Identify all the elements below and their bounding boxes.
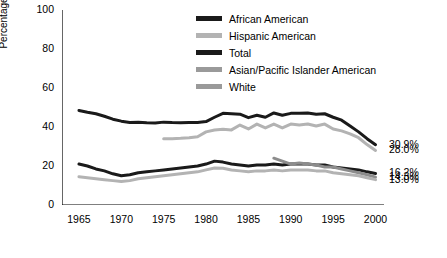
legend-label-hispanic-american: Hispanic American [229,30,316,42]
legend-swatch-african-american [196,16,222,21]
x-tick-1990: 1990 [271,213,311,225]
y-tick-80: 80 [28,42,54,54]
x-tick-1995: 1995 [313,213,353,225]
end-label-hispanic-american: 28.0% [389,143,419,155]
y-axis-label: Percentage [0,0,9,78]
legend-label-african-american: African American [229,13,308,25]
legend: African American Hispanic American Total… [196,10,376,95]
x-tick-1980: 1980 [186,213,226,225]
legend-swatch-hispanic-american [196,33,222,38]
x-tick-1970: 1970 [101,213,141,225]
legend-swatch-asian-pacific-islander-american [196,67,222,72]
x-tick-1965: 1965 [59,213,99,225]
x-tick-1975: 1975 [144,213,184,225]
x-tick-1985: 1985 [228,213,268,225]
series-line-hispanic-american [164,124,376,150]
legend-label-total: Total [229,47,251,59]
x-tick-2000: 2000 [356,213,396,225]
y-tick-100: 100 [28,3,54,15]
legend-swatch-total [196,50,222,55]
legend-label-white: White [229,81,256,93]
y-tick-60: 60 [28,81,54,93]
legend-item-total: Total [196,44,376,61]
chart-container: Percentage 020406080100 1965197019751980… [0,0,447,258]
y-tick-20: 20 [28,159,54,171]
y-tick-40: 40 [28,120,54,132]
series-line-asian-pacific-islander-american [274,158,376,177]
legend-label-asian-pacific-islander-american: Asian/Pacific Islander American [229,64,376,76]
legend-swatch-white [196,84,222,89]
legend-item-african-american: African American [196,10,376,27]
legend-item-asian-pacific-islander-american: Asian/Pacific Islander American [196,61,376,78]
legend-item-white: White [196,78,376,95]
end-label-white: 13.0% [389,173,419,185]
legend-item-hispanic-american: Hispanic American [196,27,376,44]
y-tick-0: 0 [28,198,54,210]
